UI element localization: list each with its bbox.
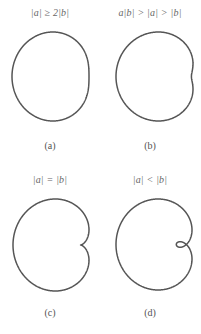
panel-b: a|b| > |a| > |b| (b) [100, 0, 200, 167]
caption-b: (b) [100, 140, 200, 151]
caption-c: (c) [0, 307, 100, 318]
caption-a: (a) [0, 140, 100, 151]
panel-a: |a| ≥ 2|b| (a) [0, 0, 100, 167]
caption-d: (d) [100, 307, 200, 318]
panel-c: |a| = |b| (c) [0, 167, 100, 334]
panel-d: |a| < |b| (d) [100, 167, 200, 334]
